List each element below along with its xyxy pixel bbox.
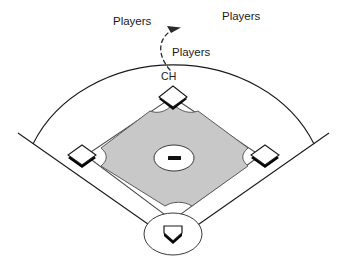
- third-base: [68, 145, 96, 168]
- label-players-left: Players: [113, 16, 151, 28]
- label-ch: CH: [161, 71, 177, 82]
- field-graphic: [0, 0, 346, 265]
- pitchers-rubber: [168, 156, 181, 160]
- second-base: [159, 86, 187, 110]
- label-players-right: Players: [222, 11, 260, 23]
- baseball-field-diagram: Players Players Players CH: [0, 0, 346, 265]
- label-players-mid: Players: [172, 47, 210, 59]
- first-base: [251, 145, 279, 168]
